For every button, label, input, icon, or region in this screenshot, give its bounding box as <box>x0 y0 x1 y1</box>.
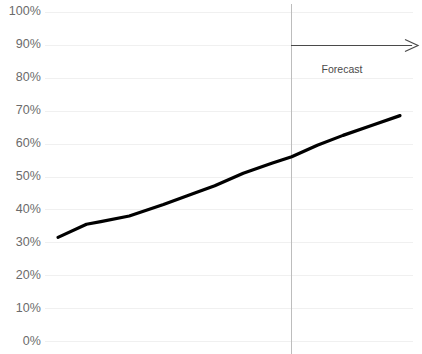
forecast-divider-line <box>291 4 292 354</box>
gridline-40 <box>45 209 413 210</box>
gridline-80 <box>45 78 413 79</box>
y-tick-label-50: 50% <box>0 170 41 183</box>
gridline-0 <box>45 341 413 342</box>
plot-area: Forecast <box>45 0 413 354</box>
gridline-50 <box>45 177 413 178</box>
y-tick-label-80: 80% <box>0 71 41 84</box>
gridline-20 <box>45 275 413 276</box>
y-tick-label-0: 0% <box>0 335 41 348</box>
gridline-60 <box>45 144 413 145</box>
gridline-10 <box>45 308 413 309</box>
gridline-30 <box>45 242 413 243</box>
y-tick-label-90: 90% <box>0 38 41 51</box>
y-tick-label-70: 70% <box>0 104 41 117</box>
forecast-arrow-icon <box>290 38 422 54</box>
y-tick-label-20: 20% <box>0 269 41 282</box>
y-tick-label-40: 40% <box>0 203 41 216</box>
y-tick-label-100: 100% <box>0 5 41 18</box>
y-tick-label-60: 60% <box>0 137 41 150</box>
gridline-70 <box>45 111 413 112</box>
y-tick-label-30: 30% <box>0 236 41 249</box>
y-axis: 100% 90% 80% 70% 60% 50% 40% 30% 20% 10%… <box>0 0 41 354</box>
forecast-label: Forecast <box>297 63 387 75</box>
y-tick-label-10: 10% <box>0 302 41 315</box>
gridline-100 <box>45 12 413 13</box>
